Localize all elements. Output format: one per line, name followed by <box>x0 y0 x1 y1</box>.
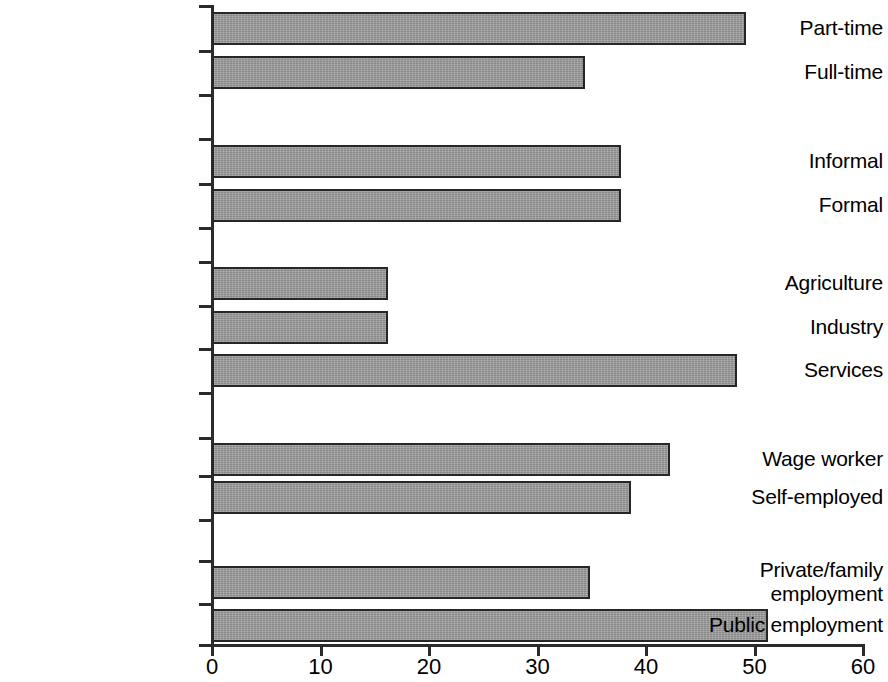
category-label: Informal <box>691 149 883 173</box>
category-label: Self-employed <box>691 485 883 509</box>
y-axis-tick <box>199 560 212 563</box>
bar <box>212 609 768 642</box>
x-axis-tick-label: 50 <box>725 654 785 680</box>
category-label: Public employment <box>691 613 883 637</box>
y-axis-tick <box>199 50 212 53</box>
bar <box>212 267 388 300</box>
y-axis-tick <box>199 519 212 522</box>
category-label: Agriculture <box>691 271 883 295</box>
y-axis-tick <box>199 348 212 351</box>
bar <box>212 443 670 476</box>
category-label: Part-time <box>691 16 883 40</box>
x-axis-tick-label: 30 <box>508 654 568 680</box>
y-axis-tick <box>199 437 212 440</box>
bar <box>212 481 631 514</box>
y-axis-tick <box>199 392 212 395</box>
x-axis-tick-label: 0 <box>182 654 242 680</box>
category-label: Private/family employment <box>691 558 883 606</box>
bar <box>212 145 621 178</box>
category-label: Wage worker <box>691 447 883 471</box>
bar <box>212 189 621 222</box>
y-axis-tick <box>199 475 212 478</box>
x-axis-tick-label: 10 <box>291 654 351 680</box>
bar <box>212 56 585 89</box>
category-label: Industry <box>691 315 883 339</box>
category-label: Full-time <box>691 60 883 84</box>
category-label: Formal <box>691 193 883 217</box>
y-axis-tick <box>199 227 212 230</box>
y-axis-tick <box>199 138 212 141</box>
y-axis-tick <box>199 603 212 606</box>
y-axis-tick <box>199 261 212 264</box>
x-axis-tick-label: 60 <box>833 654 888 680</box>
y-axis-tick <box>199 94 212 97</box>
bar <box>212 12 746 45</box>
bar <box>212 566 590 599</box>
bar <box>212 311 388 344</box>
x-axis-tick-label: 20 <box>399 654 459 680</box>
x-axis-tick-label: 40 <box>616 654 676 680</box>
category-label: Services <box>691 358 883 382</box>
y-axis-tick <box>199 183 212 186</box>
y-axis-tick <box>199 305 212 308</box>
y-axis-tick <box>199 5 212 8</box>
bar <box>212 354 737 387</box>
